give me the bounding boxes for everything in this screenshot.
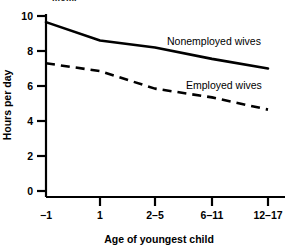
x-tick-label-2-5: 2–5 <box>146 209 164 221</box>
x-tick-label-12-17: 12–17 <box>253 209 282 221</box>
y-tick-label-8: 8 <box>27 45 33 57</box>
y-axis-title: Hours per day <box>1 70 13 141</box>
chart-container: mom. 10 8 6 4 2 0 −1 1 2 <box>0 0 297 250</box>
x-tick-label-1: 1 <box>97 209 103 221</box>
x-axis-title: Age of youngest child <box>104 233 214 245</box>
y-tick-label-2: 2 <box>27 150 33 162</box>
line-chart: 10 8 6 4 2 0 −1 1 2–5 6–11 12–17 Age of … <box>0 0 297 250</box>
y-tick-label-0: 0 <box>27 185 33 197</box>
x-axis-ticks <box>100 197 268 206</box>
y-axis-ticks <box>37 16 46 191</box>
series-label-employed-wives: Employed wives <box>186 79 262 91</box>
y-tick-label-10: 10 <box>21 10 33 22</box>
series-label-nonemployed-wives: Nonemployed wives <box>167 35 261 47</box>
y-tick-label-6: 6 <box>27 80 33 92</box>
x-tick-label-6-11: 6–11 <box>201 209 224 221</box>
y-tick-label-4: 4 <box>27 115 33 127</box>
x-tick-label-minus-1: −1 <box>40 209 52 221</box>
